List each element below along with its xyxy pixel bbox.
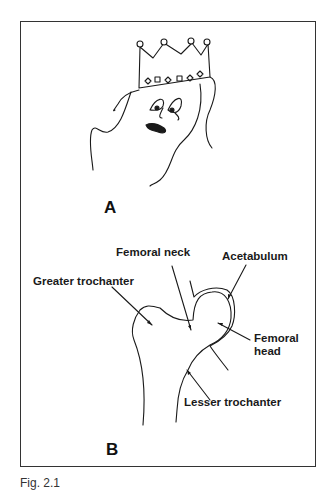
- label-femoral-head-2: head: [254, 345, 281, 358]
- label-femoral-neck: Femoral neck: [116, 246, 190, 259]
- panel-label-a: A: [104, 198, 116, 218]
- crown-icon: [137, 38, 210, 88]
- label-acetabulum: Acetabulum: [222, 250, 288, 263]
- label-lesser-trochanter: Lesser trochanter: [184, 396, 281, 409]
- label-greater-trochanter: Greater trochanter: [33, 275, 134, 288]
- label-femoral-head-1: Femoral: [254, 332, 299, 345]
- panel-label-b: B: [106, 440, 118, 460]
- figure-caption: Fig. 2.1: [20, 476, 60, 490]
